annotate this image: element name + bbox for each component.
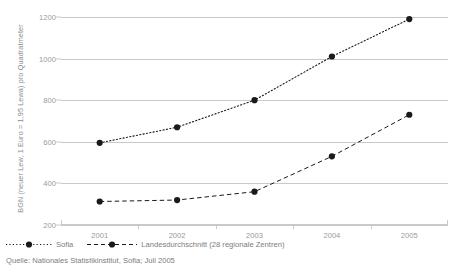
x-tick-label: 2002 bbox=[169, 231, 186, 240]
dotted-line-dot-marker-icon bbox=[6, 240, 52, 249]
x-tick-mark bbox=[371, 225, 372, 229]
data-point[interactable] bbox=[329, 153, 335, 159]
source-note: Quelle: Nationales Statistikinstitut, So… bbox=[6, 256, 175, 265]
y-tick-label: 1000 bbox=[39, 54, 56, 63]
x-tick-label: 2001 bbox=[91, 231, 108, 240]
y-tick-label: 1200 bbox=[39, 13, 56, 22]
data-point[interactable] bbox=[406, 16, 412, 22]
series-line-dotted bbox=[100, 19, 410, 143]
x-tick-label: 2003 bbox=[246, 231, 263, 240]
data-point[interactable] bbox=[174, 197, 180, 203]
data-point[interactable] bbox=[251, 189, 257, 195]
data-point[interactable] bbox=[97, 198, 103, 204]
dashed-line-dot-marker-icon bbox=[87, 240, 137, 249]
y-tick-label: 200 bbox=[43, 221, 56, 230]
data-point[interactable] bbox=[329, 53, 335, 59]
series-line-dashed bbox=[100, 115, 410, 202]
data-point[interactable] bbox=[406, 112, 412, 118]
chart-legend: Sofia Landesdurchschnitt (28 regionale Z… bbox=[6, 240, 284, 249]
x-tick-mark bbox=[138, 225, 139, 229]
x-tick-label: 2004 bbox=[323, 231, 340, 240]
legend-item-landesdurchschnitt[interactable]: Landesdurchschnitt (28 regionale Zentren… bbox=[87, 240, 284, 249]
cropped-title-strip bbox=[0, 0, 461, 10]
legend-label-sofia: Sofia bbox=[56, 240, 73, 249]
y-tick-label: 400 bbox=[43, 179, 56, 188]
y-axis-title: BGN (neuer Lew, 1 Euro = 1,95 Lewa) pro … bbox=[16, 14, 25, 224]
x-tick-label: 2005 bbox=[401, 231, 418, 240]
data-point[interactable] bbox=[251, 97, 257, 103]
legend-label-landesdurchschnitt: Landesdurchschnitt (28 regionale Zentren… bbox=[141, 240, 284, 249]
series-lines bbox=[61, 17, 448, 225]
legend-item-sofia[interactable]: Sofia bbox=[6, 240, 73, 249]
y-tick-label: 800 bbox=[43, 96, 56, 105]
plot-area: 20040060080010001200 2001200220032004200… bbox=[61, 17, 448, 225]
data-point[interactable] bbox=[174, 124, 180, 130]
gridline bbox=[61, 225, 448, 226]
y-tick-label: 600 bbox=[43, 137, 56, 146]
chart-figure: BGN (neuer Lew, 1 Euro = 1,95 Lewa) pro … bbox=[0, 0, 461, 272]
data-point[interactable] bbox=[97, 140, 103, 146]
x-tick-mark bbox=[216, 225, 217, 229]
x-tick-mark bbox=[293, 225, 294, 229]
